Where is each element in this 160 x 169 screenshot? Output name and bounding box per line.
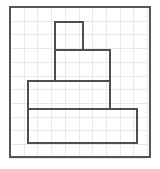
figure-container: [0, 0, 160, 169]
stepped-pyramid-diagram: [0, 0, 160, 169]
